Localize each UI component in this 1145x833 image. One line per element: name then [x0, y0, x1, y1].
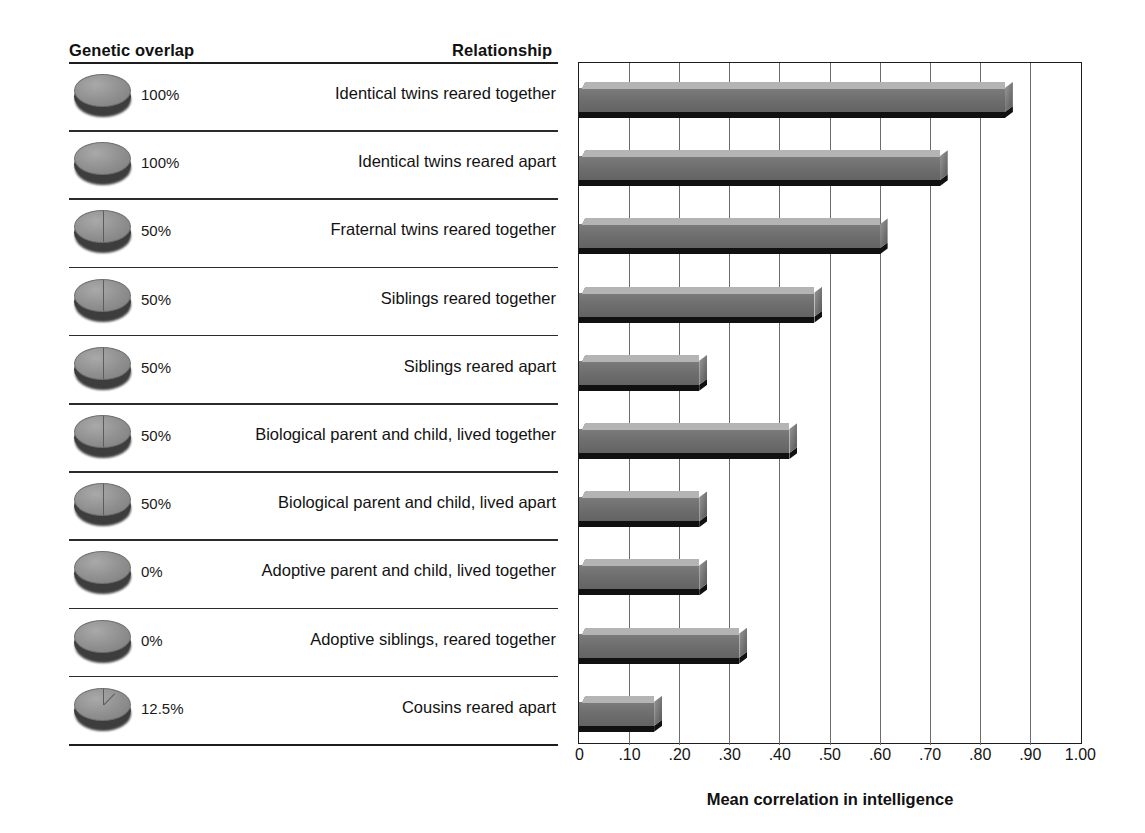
- bar: [579, 696, 654, 730]
- bar-front-face: [579, 634, 739, 658]
- relationship-label: Fraternal twins reared together: [330, 220, 556, 239]
- table-row: 0%Adoptive parent and child, lived toget…: [69, 539, 558, 607]
- disc-half-divider: [103, 280, 104, 311]
- bar-top-bevel: [579, 491, 588, 498]
- table-row: 100%Identical twins reared apart: [69, 130, 558, 198]
- x-tick-label: .70: [919, 746, 941, 764]
- disc-half-divider: [103, 416, 104, 447]
- table-row: 12.5%Cousins reared apart: [69, 676, 558, 744]
- bar-top-bevel: [579, 423, 588, 430]
- disc-top: [74, 74, 131, 107]
- bar-drop-shadow: [579, 726, 654, 732]
- bar-top-face: [586, 82, 1005, 89]
- bar-row: [579, 404, 1081, 472]
- table-row: 100%Identical twins reared together: [69, 62, 558, 130]
- row-divider: [69, 267, 558, 269]
- x-axis-label: Mean correlation in intelligence: [578, 790, 1082, 809]
- bar-row: [579, 609, 1081, 677]
- genetic-overlap-value: 0%: [141, 632, 163, 649]
- bar-front-face: [579, 156, 940, 180]
- table-row: 50%Fraternal twins reared together: [69, 198, 558, 266]
- x-tick-label: .40: [769, 746, 791, 764]
- genetic-overlap-value: 100%: [141, 86, 179, 103]
- bar-drop-shadow: [579, 589, 699, 595]
- bar-top-bevel: [579, 628, 588, 635]
- relationship-label: Siblings reared together: [381, 289, 556, 308]
- bar: [579, 628, 739, 662]
- genetic-overlap-disc-icon: [72, 346, 134, 392]
- bar-front-face: [579, 565, 699, 589]
- genetic-overlap-disc-icon: [72, 209, 134, 255]
- genetic-overlap-header: Genetic overlap: [69, 41, 194, 60]
- disc-top: [74, 279, 131, 312]
- bar-top-bevel: [579, 559, 588, 566]
- table-row: 50%Biological parent and child, lived ap…: [69, 471, 558, 539]
- disc-top: [74, 620, 131, 653]
- row-divider: [69, 403, 558, 405]
- bar: [579, 287, 814, 321]
- bar-row: [579, 268, 1081, 336]
- relationship-label: Biological parent and child, lived toget…: [255, 425, 556, 444]
- genetic-overlap-value: 50%: [141, 495, 171, 512]
- relationship-label: Siblings reared apart: [404, 357, 556, 376]
- bar-row: [579, 199, 1081, 267]
- bar-top-face: [586, 491, 699, 498]
- bar-top-bevel: [579, 287, 588, 294]
- bar: [579, 218, 880, 252]
- bar-top-face: [586, 628, 739, 635]
- x-tick-label: .10: [618, 746, 640, 764]
- x-tick-label: .80: [969, 746, 991, 764]
- bar-drop-shadow: [579, 453, 789, 459]
- genetic-overlap-disc-icon: [72, 141, 134, 187]
- bar-row: [579, 540, 1081, 608]
- bar-drop-shadow: [579, 248, 880, 254]
- disc-top: [74, 142, 131, 175]
- bar-front-face: [579, 88, 1005, 112]
- bar-top-bevel: [579, 696, 588, 703]
- bar-row: [579, 472, 1081, 540]
- bar-top-face: [586, 218, 880, 225]
- bar: [579, 355, 699, 389]
- x-tick-label: .50: [819, 746, 841, 764]
- genetic-overlap-disc-icon: [72, 482, 134, 528]
- row-divider: [69, 335, 558, 337]
- table-row: 50%Siblings reared apart: [69, 335, 558, 403]
- bar-row: [579, 131, 1081, 199]
- bar-top-face: [586, 287, 814, 294]
- x-tick-label: .90: [1019, 746, 1041, 764]
- bar-row: [579, 677, 1081, 745]
- disc-half-divider: [103, 484, 104, 515]
- disc-wedge-edge-a: [103, 689, 104, 705]
- bar-top-bevel: [579, 355, 588, 362]
- bar-top-bevel: [579, 82, 588, 89]
- relationship-label: Biological parent and child, lived apart: [278, 493, 556, 512]
- genetic-overlap-value: 50%: [141, 427, 171, 444]
- relationship-label: Identical twins reared together: [335, 84, 556, 103]
- genetic-overlap-disc-icon: [72, 278, 134, 324]
- relationship-table: 100%Identical twins reared together100%I…: [69, 62, 558, 744]
- bar: [579, 150, 940, 184]
- row-divider: [69, 539, 558, 541]
- table-row: 50%Biological parent and child, lived to…: [69, 403, 558, 471]
- bar-drop-shadow: [579, 385, 699, 391]
- genetic-overlap-value: 50%: [141, 222, 171, 239]
- bar-row: [579, 63, 1081, 131]
- x-tick-label: .60: [869, 746, 891, 764]
- bar: [579, 559, 699, 593]
- bar-front-face: [579, 361, 699, 385]
- row-divider: [69, 608, 558, 610]
- relationship-label: Cousins reared apart: [402, 698, 556, 717]
- x-tick-label: .20: [668, 746, 690, 764]
- bar-drop-shadow: [579, 317, 814, 323]
- disc-top: [74, 483, 131, 516]
- bar-front-face: [579, 429, 789, 453]
- bar-drop-shadow: [579, 180, 940, 186]
- disc-half-divider: [103, 348, 104, 379]
- bar-front-face: [579, 497, 699, 521]
- genetic-overlap-value: 50%: [141, 291, 171, 308]
- bar-drop-shadow: [579, 658, 739, 664]
- table-bottom-rule: [69, 744, 558, 746]
- bar-chart-plot-area: [578, 62, 1082, 744]
- bar-top-bevel: [579, 150, 588, 157]
- bar-top-face: [586, 696, 654, 703]
